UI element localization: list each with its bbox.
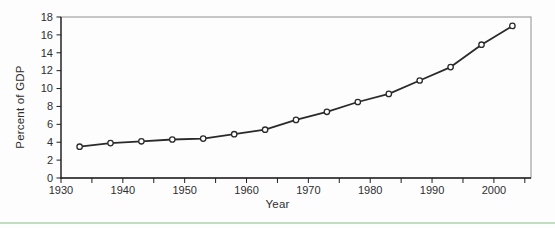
data-point-marker — [139, 139, 144, 144]
data-point-marker — [170, 137, 175, 142]
x-axis-tick-label: 1940 — [111, 184, 135, 196]
data-point-marker — [355, 99, 360, 104]
y-axis-tick-label: 6 — [47, 118, 53, 130]
x-axis-tick-label: 1990 — [420, 184, 444, 196]
y-axis-tick-label: 4 — [47, 136, 53, 148]
data-point-marker — [479, 42, 484, 47]
y-axis-tick-label: 18 — [41, 11, 53, 23]
data-point-marker — [324, 109, 329, 114]
data-point-marker — [448, 64, 453, 69]
trend-line — [80, 26, 513, 147]
data-point-marker — [386, 91, 391, 96]
chart-figure: 0246810121416181930194019501960197019801… — [0, 0, 555, 228]
y-axis-title: Percent of GDP — [14, 27, 28, 188]
y-axis-tick-label: 2 — [47, 154, 53, 166]
x-axis-tick-label: 1950 — [172, 184, 196, 196]
data-point-marker — [262, 127, 267, 132]
y-axis-tick-label: 8 — [47, 100, 53, 112]
data-point-marker — [108, 140, 113, 145]
y-axis-tick-label: 10 — [41, 82, 53, 94]
y-axis-tick-label: 0 — [47, 172, 53, 184]
x-axis-tick-label: 1970 — [296, 184, 320, 196]
x-axis-tick-label: 2000 — [482, 184, 506, 196]
x-axis-title: Year — [0, 198, 555, 210]
y-axis-tick-label: 14 — [41, 47, 53, 59]
data-point-marker — [417, 78, 422, 83]
page-divider — [0, 222, 555, 224]
plot-frame — [61, 17, 531, 178]
data-point-marker — [77, 144, 82, 149]
data-point-marker — [201, 136, 206, 141]
y-axis-tick-label: 16 — [41, 29, 53, 41]
gdp-trend-chart: 0246810121416181930194019501960197019801… — [0, 0, 555, 228]
x-axis-tick-label: 1960 — [234, 184, 258, 196]
x-axis-tick-label: 1930 — [49, 184, 73, 196]
data-point-marker — [510, 23, 515, 28]
x-axis-tick-label: 1980 — [358, 184, 382, 196]
y-axis-tick-label: 12 — [41, 64, 53, 76]
data-point-marker — [293, 117, 298, 122]
data-point-marker — [232, 132, 237, 137]
